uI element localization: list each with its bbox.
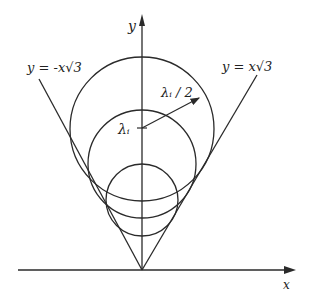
radius-label: λᵢ / 2 [160, 85, 193, 100]
x-axis-arrow-icon [284, 266, 296, 274]
x-axis-label: x [283, 278, 290, 292]
y-axis-label: y [127, 18, 137, 34]
diagram-svg: y x y = -x√3 y = x√3 λᵢ λᵢ / 2 [0, 0, 311, 298]
line-negative-slope [39, 79, 142, 270]
center-label: λᵢ [117, 121, 130, 137]
y-axis-arrow-icon [139, 14, 145, 26]
line-right-label: y = x√3 [221, 59, 272, 74]
radius-arrow [142, 98, 199, 128]
diagram-canvas: y x y = -x√3 y = x√3 λᵢ λᵢ / 2 [0, 0, 311, 298]
line-left-label: y = -x√3 [26, 60, 82, 75]
